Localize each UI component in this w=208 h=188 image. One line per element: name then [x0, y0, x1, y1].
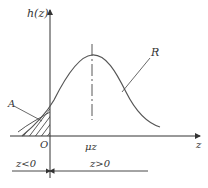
y-axis-label: h(z) [27, 7, 48, 20]
leader-r [122, 58, 150, 92]
area-label-a: A [7, 98, 15, 109]
region-left-label: z<0 [15, 158, 37, 169]
x-axis-label: z [195, 139, 202, 150]
distribution-diagram: h(z) z O μz R A z<0 z>0 [0, 0, 208, 188]
curve-a-boundary [18, 112, 50, 132]
distribution-curve-r [22, 55, 160, 136]
region-right-label: z>0 [89, 158, 111, 169]
mean-label: μz [85, 141, 97, 152]
leader-a [14, 106, 42, 121]
curve-label-r: R [150, 46, 159, 59]
origin-label: O [40, 139, 48, 150]
